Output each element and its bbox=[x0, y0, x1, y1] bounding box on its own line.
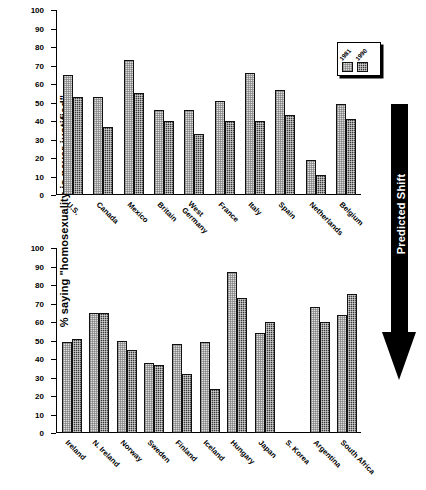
legend-swatches bbox=[342, 62, 368, 72]
y-tick-label: 30 bbox=[35, 135, 44, 144]
bar-group bbox=[141, 248, 169, 433]
y-tick-label: 90 bbox=[35, 262, 44, 271]
x-label-cell: Ireland bbox=[58, 433, 86, 490]
bar-group bbox=[209, 10, 239, 195]
y-tick: 100 bbox=[51, 10, 56, 11]
bar-group bbox=[119, 10, 149, 195]
x-label-cell: Norway bbox=[113, 433, 141, 490]
y-tick: 80 bbox=[51, 285, 56, 286]
bar-1990 bbox=[347, 294, 357, 433]
y-tick: 50 bbox=[51, 341, 56, 342]
y-tick-label: 60 bbox=[35, 318, 44, 327]
x-axis-label: Belgium bbox=[337, 200, 365, 228]
x-axis-label: Britain bbox=[156, 200, 179, 223]
y-tick: 20 bbox=[51, 396, 56, 397]
y-tick: 30 bbox=[51, 140, 56, 141]
bar-group bbox=[300, 10, 330, 195]
y-tick: 50 bbox=[51, 103, 56, 104]
legend-label-1990: 1990 bbox=[354, 47, 368, 62]
y-tick-label: 20 bbox=[35, 392, 44, 401]
bar-1981 bbox=[337, 315, 347, 433]
x-label-cell: France bbox=[209, 195, 239, 255]
y-tick-label: 10 bbox=[35, 410, 44, 419]
x-axis-label: France bbox=[216, 200, 240, 224]
y-tick: 60 bbox=[51, 84, 56, 85]
y-tick: 40 bbox=[51, 359, 56, 360]
bar-group bbox=[333, 248, 361, 433]
bar-1981 bbox=[63, 75, 73, 195]
bar-1990 bbox=[285, 115, 295, 195]
bar-1990 bbox=[316, 175, 326, 195]
bar-1990 bbox=[210, 389, 220, 433]
y-tick-label: 90 bbox=[35, 24, 44, 33]
bar-1981 bbox=[310, 307, 320, 433]
bar-group bbox=[149, 10, 179, 195]
bar-1990 bbox=[225, 121, 235, 195]
bar-1981 bbox=[255, 333, 265, 433]
y-tick: 70 bbox=[51, 66, 56, 67]
x-label-cell: West Germany bbox=[179, 195, 209, 255]
bar-1990 bbox=[164, 121, 174, 195]
x-label-cell: Mexico bbox=[119, 195, 149, 255]
bar-1981 bbox=[184, 110, 194, 195]
bar-group bbox=[86, 248, 114, 433]
x-label-cell: Italy bbox=[240, 195, 270, 255]
y-tick: 0 bbox=[51, 195, 56, 196]
x-label-cell: Spain bbox=[270, 195, 300, 255]
x-axis-label: U.S. bbox=[65, 200, 82, 217]
x-axis-label: Italy bbox=[247, 200, 264, 217]
y-tick: 10 bbox=[51, 415, 56, 416]
x-axis-label: Mexico bbox=[125, 200, 150, 225]
y-tick-label: 70 bbox=[35, 61, 44, 70]
y-tick-label: 50 bbox=[35, 336, 44, 345]
bar-1981 bbox=[275, 90, 285, 195]
y-tick-label: 10 bbox=[35, 172, 44, 181]
y-tick-label: 80 bbox=[35, 43, 44, 52]
bar-1990 bbox=[237, 298, 247, 433]
bar-1990 bbox=[320, 322, 330, 433]
y-tick-label: 20 bbox=[35, 154, 44, 163]
bar-1981 bbox=[89, 313, 99, 433]
y-tick: 90 bbox=[51, 267, 56, 268]
bar-1990 bbox=[265, 322, 275, 433]
arrow-head-icon bbox=[382, 332, 416, 380]
y-tick-label: 100 bbox=[31, 6, 44, 15]
y-tick: 0 bbox=[51, 433, 56, 434]
bar-1981 bbox=[144, 363, 154, 433]
bar-1990 bbox=[73, 97, 83, 195]
x-axis-label: Canada bbox=[95, 200, 121, 226]
bar-1990 bbox=[127, 350, 137, 433]
bar-1990 bbox=[255, 121, 265, 195]
y-tick: 90 bbox=[51, 29, 56, 30]
chart-figure: % saying "homosexuality is never justifi… bbox=[0, 0, 426, 490]
x-axis-labels-top: U.S.CanadaMexicoBritainWest GermanyFranc… bbox=[58, 195, 361, 255]
bar-group bbox=[88, 10, 118, 195]
bar-1981 bbox=[336, 104, 346, 195]
y-tick-label: 0 bbox=[40, 191, 44, 200]
x-label-cell: Argentina bbox=[306, 433, 334, 490]
chart-legend: 1981 1990 bbox=[337, 42, 381, 76]
bar-group bbox=[278, 248, 306, 433]
y-tick-label: 40 bbox=[35, 117, 44, 126]
bar-group bbox=[58, 248, 86, 433]
x-label-cell: Britain bbox=[149, 195, 179, 255]
bar-group bbox=[240, 10, 270, 195]
bar-1981 bbox=[93, 97, 103, 195]
y-tick-label: 60 bbox=[35, 80, 44, 89]
y-tick: 80 bbox=[51, 47, 56, 48]
x-label-cell: Belgium bbox=[331, 195, 361, 255]
x-axis-label: Iceland bbox=[201, 438, 226, 463]
x-label-cell: Netherlands bbox=[300, 195, 330, 255]
bar-group bbox=[270, 10, 300, 195]
bar-1990 bbox=[182, 374, 192, 433]
y-tick: 60 bbox=[51, 322, 56, 323]
y-tick-label: 80 bbox=[35, 281, 44, 290]
bar-1981 bbox=[245, 73, 255, 195]
y-tick-label: 40 bbox=[35, 355, 44, 364]
legend-swatch-1990 bbox=[357, 62, 368, 72]
y-tick-label: 50 bbox=[35, 98, 44, 107]
y-tick: 40 bbox=[51, 121, 56, 122]
bar-1990 bbox=[346, 119, 356, 195]
bar-groups-top bbox=[58, 10, 361, 195]
bar-1981 bbox=[124, 60, 134, 195]
